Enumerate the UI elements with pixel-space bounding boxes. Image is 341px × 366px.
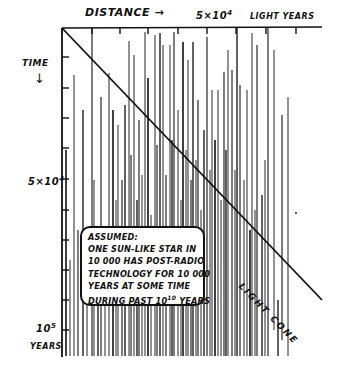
note-line: YEARS AT SOME TIME — [88, 280, 203, 292]
note-line: ASSUMED: — [88, 231, 203, 243]
down-arrow-icon: ↓ — [34, 71, 45, 86]
note-line: TECHNOLOGY FOR 10 000 — [88, 268, 203, 280]
x-axis-line — [62, 27, 322, 28]
note-line: ONE SUN-LIKE STAR IN — [88, 243, 203, 255]
x-axis-title: DISTANCE → — [85, 6, 164, 19]
note-line: 10 000 HAS POST-RADIO — [88, 255, 203, 267]
y-axis-mid-label: 5×104 — [28, 175, 65, 187]
y-axis-end-unit: YEARS — [30, 342, 62, 351]
speck — [295, 212, 297, 214]
note-line: DURING PAST 1010 YEARS — [88, 292, 203, 307]
x-axis-unit-label: LIGHT YEARS — [250, 12, 314, 21]
y-axis-title: TIME — [22, 58, 49, 68]
assumption-note-box: ASSUMED: ONE SUN-LIKE STAR IN 10 000 HAS… — [80, 226, 205, 306]
x-axis-ticks — [62, 28, 296, 34]
y-axis-end-label: 105 — [36, 322, 56, 334]
x-axis-mid-label: 5×104 — [196, 9, 233, 21]
